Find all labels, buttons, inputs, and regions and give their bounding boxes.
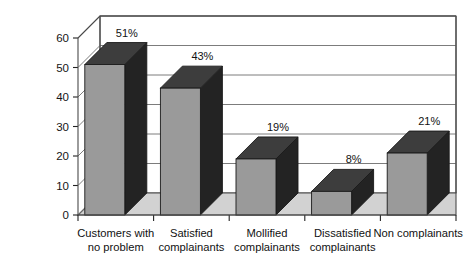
y-axis-tick-label: 20: [56, 150, 69, 162]
category-labels: Customers withno problemSatisfiedcomplai…: [77, 227, 463, 253]
y-axis-tick-label: 50: [56, 62, 69, 74]
bar-value-label: 51%: [116, 27, 138, 39]
x-axis-category-label: complainants: [310, 241, 376, 253]
x-axis-category-label: Non complainants: [373, 227, 463, 239]
x-axis-category-label: complainants: [158, 241, 224, 253]
x-axis-category-label: Mollified: [246, 227, 287, 239]
bar: [387, 131, 449, 215]
x-axis-category-label: no problem: [88, 241, 144, 253]
bar-value-label: 8%: [346, 153, 362, 165]
bar: [160, 66, 222, 215]
x-axis-category-label: complainants: [234, 241, 300, 253]
bar-value-label: 43%: [191, 50, 213, 62]
bar: [85, 43, 147, 215]
chart-container: 0102030405060 51%43%19%8%21% Customers w…: [0, 0, 472, 266]
y-axis-tick-label: 60: [56, 32, 69, 44]
y-axis-tick-label: 40: [56, 91, 69, 103]
x-axis-category-label: Customers with: [77, 227, 154, 239]
bar-value-label: 21%: [418, 115, 440, 127]
bar-value-label: 19%: [267, 121, 289, 133]
x-axis-category-label: Dissatisfied: [314, 227, 371, 239]
y-axis-tick-label: 30: [56, 121, 69, 133]
repurchase-intent-bar-chart: 0102030405060 51%43%19%8%21% Customers w…: [0, 0, 472, 266]
x-axis-category-label: Satisfied: [170, 227, 213, 239]
y-axis-tick-label: 10: [56, 180, 69, 192]
y-axis-tick-label: 0: [63, 209, 69, 221]
